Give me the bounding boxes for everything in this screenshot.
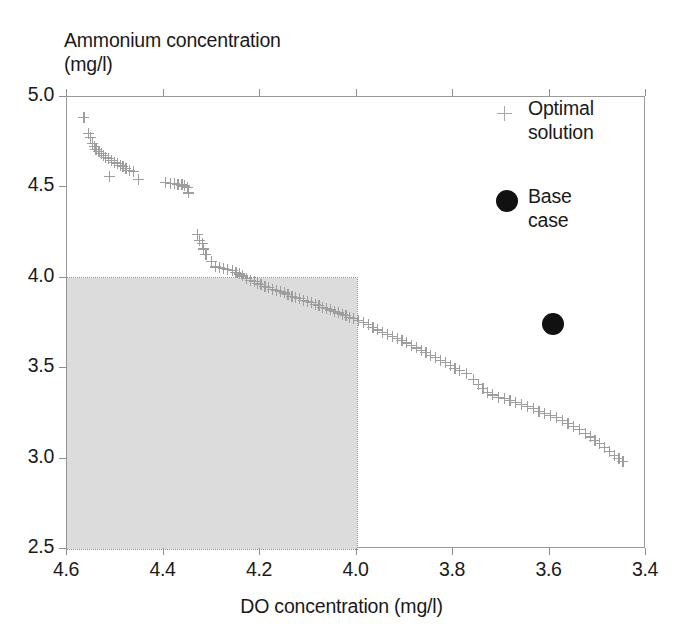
legend-label-base-case: Base case (528, 184, 572, 232)
optimal-solution-point (115, 160, 126, 171)
optimal-solution-point (425, 350, 436, 361)
optimal-solution-point (454, 365, 465, 376)
optimal-solution-point (172, 179, 183, 190)
y-axis-title: Ammonium concentration (mg/l) (64, 28, 394, 76)
optimal-solution-point (468, 374, 479, 385)
optimal-solution-point (169, 178, 180, 189)
x-axis-tick-top (549, 89, 550, 96)
optimal-solution-point (183, 187, 194, 198)
x-axis-tick-label: 3.8 (422, 558, 482, 581)
optimal-solution-point (85, 132, 96, 143)
optimal-solution-point (198, 243, 209, 254)
optimal-solution-point (493, 392, 504, 403)
optimal-solution-point (87, 138, 98, 149)
optimal-solution-point (435, 355, 446, 366)
optimal-solution-point (562, 418, 573, 429)
optimal-solution-point (363, 319, 374, 330)
shaded-constraint-region (67, 278, 357, 549)
optimal-solution-point (609, 450, 620, 461)
optimal-solution-point (103, 153, 114, 164)
optimal-solution-point (197, 238, 208, 249)
optimal-solution-point (528, 403, 539, 414)
optimal-solution-point (396, 335, 407, 346)
optimal-solution-point (568, 421, 579, 432)
x-axis-tick (356, 548, 357, 555)
legend-circle-icon (496, 190, 518, 212)
x-axis-tick-top (66, 89, 67, 96)
x-axis-tick (645, 548, 646, 555)
y-axis-tick-label: 3.0 (2, 445, 54, 468)
optimal-solution-point (227, 265, 238, 276)
optimal-solution-point (557, 415, 568, 426)
optimal-solution-point (387, 331, 398, 342)
optimal-solution-point (117, 161, 128, 172)
optimal-solution-point (98, 150, 109, 161)
optimal-solution-point (589, 435, 600, 446)
optimal-solution-point (411, 342, 422, 353)
optimal-solution-point (372, 324, 383, 335)
optimal-solution-point (176, 179, 187, 190)
optimal-solution-point (214, 262, 225, 273)
y-axis-tick-label: 4.0 (2, 264, 54, 287)
optimal-solution-point (112, 158, 123, 169)
optimal-solution-point (165, 178, 176, 189)
optimal-solution-point (106, 155, 117, 166)
y-axis-tick-label: 2.5 (2, 535, 54, 558)
optimal-solution-point (504, 395, 515, 406)
x-axis-tick-top (163, 89, 164, 96)
x-axis-tick (163, 548, 164, 555)
x-axis-tick-label: 4.0 (326, 558, 386, 581)
optimal-solution-point (604, 446, 615, 457)
optimal-solution-point (124, 165, 135, 176)
x-axis-tick-label: 4.4 (133, 558, 193, 581)
y-axis-tick (59, 458, 66, 459)
x-axis-tick-label: 3.4 (615, 558, 675, 581)
optimal-solution-point (482, 387, 493, 398)
optimal-solution-point (206, 256, 217, 267)
optimal-solution-point (367, 322, 378, 333)
legend-plus-icon (497, 106, 512, 121)
x-axis-tick (66, 548, 67, 555)
optimal-solution-point (510, 397, 521, 408)
optimal-solution-point (430, 352, 441, 363)
optimal-solution-point (90, 144, 101, 155)
optimal-solution-point (613, 453, 624, 464)
plot-area (66, 96, 645, 548)
optimal-solution-point (93, 146, 104, 157)
optimal-solution-point (551, 412, 562, 423)
optimal-solution-point (516, 399, 527, 410)
x-axis-tick-top (452, 89, 453, 96)
optimal-solution-point (382, 329, 393, 340)
optimal-solution-point (545, 410, 556, 421)
optimal-solution-point (522, 401, 533, 412)
optimal-solution-point (574, 424, 585, 435)
optimal-solution-point (392, 333, 403, 344)
optimal-solution-point (406, 340, 417, 351)
x-axis-tick-label: 4.2 (229, 558, 289, 581)
optimal-solution-point (222, 264, 233, 275)
optimal-solution-point (377, 327, 388, 338)
x-axis-tick (452, 548, 453, 555)
x-axis-tick-label: 3.6 (519, 558, 579, 581)
y-axis-tick-label: 3.5 (2, 354, 54, 377)
x-axis-tick (259, 548, 260, 555)
y-axis-tick-label: 5.0 (2, 83, 54, 106)
x-axis-tick (549, 548, 550, 555)
optimal-solution-point (599, 442, 610, 453)
optimal-solution-point (617, 456, 628, 467)
optimal-solution-point (218, 263, 229, 274)
optimal-solution-point (539, 408, 550, 419)
optimal-solution-point (594, 438, 605, 449)
y-axis-tick (59, 367, 66, 368)
y-axis-tick (59, 277, 66, 278)
optimal-solution-point (445, 360, 456, 371)
optimal-solution-point (192, 229, 203, 240)
optimal-solution-point (89, 141, 100, 152)
optimal-solution-point (120, 163, 131, 174)
optimal-solution-point (440, 357, 451, 368)
optimal-solution-point (182, 182, 193, 193)
legend-label-optimal-solution: Optimal solution (528, 96, 594, 144)
x-axis-tick-top (259, 89, 260, 96)
optimal-solution-point (477, 383, 488, 394)
optimal-solution-point (416, 345, 427, 356)
